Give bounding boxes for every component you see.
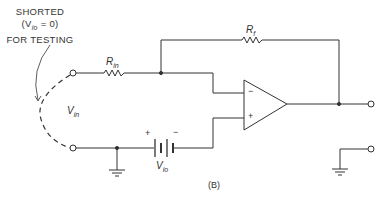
rf-label: Rf bbox=[246, 24, 255, 37]
input-terminal-bottom bbox=[70, 145, 76, 151]
opamp-minus-sign: − bbox=[248, 86, 253, 96]
resistor-rf bbox=[242, 37, 262, 43]
output-terminal bbox=[368, 101, 374, 107]
short-dashed-arc bbox=[40, 75, 70, 148]
rin-label: Rin bbox=[106, 56, 119, 69]
junction-output bbox=[337, 102, 340, 105]
output-ground-terminal bbox=[368, 146, 374, 152]
vin-label: Vin bbox=[67, 105, 79, 118]
battery-minus-sign: − bbox=[173, 127, 178, 137]
battery-plus-sign: + bbox=[145, 128, 150, 138]
opamp-plus-sign: + bbox=[248, 111, 253, 121]
input-terminal-top bbox=[70, 70, 76, 76]
figure-caption: (B) bbox=[208, 180, 220, 190]
resistor-rin bbox=[104, 70, 124, 76]
shorted-annotation: SHORTED (Vio = 0) FOR TESTING bbox=[6, 6, 74, 46]
vio-label: Vio bbox=[156, 160, 168, 173]
annotation-arrow bbox=[36, 45, 50, 100]
